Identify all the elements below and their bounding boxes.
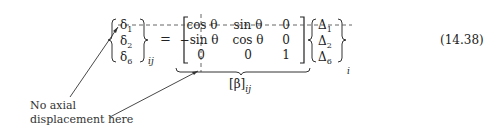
equals-sign: = [160, 32, 171, 46]
annotation-line-2: displacement here [30, 113, 133, 127]
rhs-entry-3: Δ6 [318, 50, 340, 66]
rhs-subscript: i [347, 66, 500, 76]
rhs-vector: Δ1 Δ2 Δ6 [318, 18, 340, 66]
rhs-entry-1: Δ1 [318, 18, 340, 34]
arrow-to-delta1 [70, 27, 118, 97]
matrix-cell-r1c3: 0 [264, 18, 308, 32]
equation-number: (14.38) [440, 33, 484, 47]
lhs-entry-3: δ6 [120, 50, 142, 66]
annotation-note: No axial displacement here [30, 99, 133, 127]
lhs-vector: δ1 δ2 δ6 [120, 18, 142, 66]
matrix-cell-r2c1: −sin θ [177, 33, 221, 47]
lhs-entry-2: δ2 [120, 34, 142, 50]
arrowhead-delta1 [113, 27, 118, 33]
lhs-entry-1: δ1 [120, 18, 142, 34]
matrix-cell-r3c3: 1 [264, 48, 308, 62]
matrix-cell-r1c1: cos θ [180, 18, 224, 32]
annotation-line-1: No axial [30, 99, 133, 113]
matrix-cell-r3c1: 0 [179, 48, 223, 62]
matrix-cell-r2c3: 0 [264, 33, 308, 47]
rhs-entry-2: Δ2 [318, 34, 340, 50]
matrix-label: [β]ij [229, 77, 251, 92]
